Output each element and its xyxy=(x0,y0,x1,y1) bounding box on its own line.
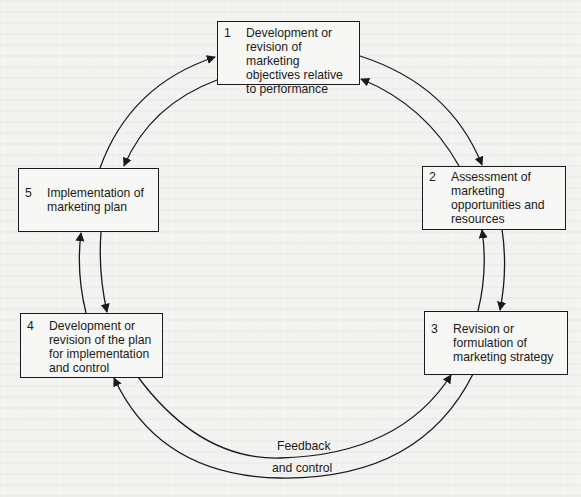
arrow-4-to-5 xyxy=(79,233,86,313)
arrow-5-to-1 xyxy=(100,57,215,168)
step-number: 1 xyxy=(218,26,246,84)
step-text: Development or revision of marketing obj… xyxy=(246,26,359,84)
step-text: Revision or formulation of marketing str… xyxy=(453,322,567,374)
feedback-label: Feedback xyxy=(277,439,331,453)
step-text: Development or revision of the plan for … xyxy=(49,319,162,377)
step-box-2: 2 Assessment of marketing opportunities … xyxy=(422,166,566,230)
step-box-5: 5 Implementation of marketing plan xyxy=(18,168,159,232)
arrow-2-to-1 xyxy=(361,79,459,166)
step-number: 5 xyxy=(19,186,47,231)
step-number: 2 xyxy=(423,170,451,229)
step-number: 3 xyxy=(425,322,453,374)
arrow-1-to-2 xyxy=(360,56,482,165)
control-label: and control xyxy=(272,461,332,475)
step-text: Assessment of marketing opportunities an… xyxy=(451,170,565,229)
arrow-5-to-4 xyxy=(100,232,107,312)
step-box-4: 4 Development or revision of the plan fo… xyxy=(20,313,163,378)
step-box-3: 3 Revision or formulation of marketing s… xyxy=(424,311,568,375)
step-box-1: 1 Development or revision of marketing o… xyxy=(217,21,360,85)
arrow-3-to-2 xyxy=(478,230,484,311)
arrow-1-to-5 xyxy=(124,80,217,166)
step-number: 4 xyxy=(21,319,49,377)
arrow-2-to-3 xyxy=(500,229,505,310)
step-text: Implementation of marketing plan xyxy=(47,186,158,231)
